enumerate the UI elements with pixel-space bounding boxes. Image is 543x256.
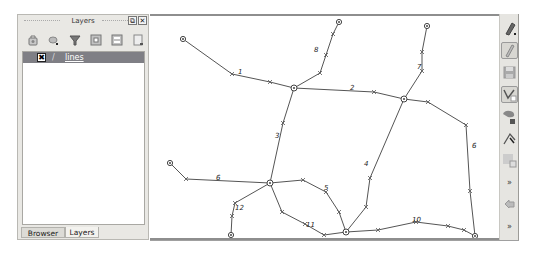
add-line-icon [502,87,517,102]
node-tool-icon [501,130,518,147]
line-feature[interactable]: 4 [346,99,404,232]
toggle-editing-button[interactable] [501,20,518,37]
line-symbol-icon: / [52,52,55,63]
layer-item-lines[interactable]: ✖ / lines [23,52,144,63]
line-feature[interactable]: 12 [230,183,270,235]
delete-selected-icon [501,152,518,169]
undo-button[interactable] [501,196,518,213]
map-features[interactable]: 123456678101112 [150,16,499,238]
delete-selected-button[interactable] [501,152,518,169]
line-label: 5 [324,184,329,192]
line-feature[interactable]: 11 [270,183,346,237]
line-feature[interactable]: 6 [170,163,270,183]
line-label: 3 [275,132,279,140]
line-label: 2 [350,84,355,92]
layer-tree: ✖ / lines [22,51,145,225]
digitizing-toolbar: » » [499,14,519,240]
map-canvas[interactable]: 123456678101112 [150,14,499,240]
open-layer-styling-icon[interactable] [26,32,40,46]
line-label: 4 [364,160,368,168]
tab-browser[interactable]: Browser [21,227,65,238]
line-feature[interactable]: 8 [294,22,339,88]
collapse-all-icon[interactable] [110,32,124,46]
line-label: 6 [472,142,477,150]
line-feature[interactable]: 10 [346,216,475,236]
move-feature-button[interactable] [501,108,518,125]
move-feature-icon [501,108,518,125]
line-feature[interactable]: 3 [270,88,294,183]
float-panel-button[interactable]: ⧉ [128,16,137,25]
line-label: 12 [235,204,244,212]
node-tool-button[interactable] [501,130,518,147]
save-edits-button[interactable] [501,64,518,81]
layers-panel: Layers ⧉ ✕ ✖ / lines Browser Layers [17,14,149,240]
save-icon [501,64,518,81]
close-panel-button[interactable]: ✕ [138,16,147,25]
add-line-feature-button[interactable] [501,86,518,103]
more-tools-chevron-icon[interactable]: » [501,174,518,191]
layer-visibility-checkbox[interactable]: ✖ [37,53,46,62]
layers-toolbar [22,29,146,51]
more-tools-chevron-icon[interactable]: » [501,218,518,235]
title-grip [102,20,130,23]
remove-layer-icon[interactable] [131,32,145,46]
undo-icon [501,196,518,213]
frame-divider [150,240,519,241]
pencil-icon [501,20,518,37]
edit-pencil-icon [502,43,517,58]
line-label: 1 [238,68,242,76]
line-feature[interactable]: 2 [294,84,404,99]
tab-layers[interactable]: Layers [65,227,99,238]
line-feature[interactable]: 1 [183,39,294,88]
line-feature[interactable]: 7 [404,26,427,99]
line-label: 10 [412,216,421,224]
current-edits-button[interactable] [501,42,518,59]
add-group-icon[interactable] [47,32,61,46]
expand-all-icon[interactable] [89,32,103,46]
filter-legend-icon[interactable] [68,32,82,46]
line-label: 8 [314,46,319,54]
line-label: 7 [417,63,422,71]
layer-name[interactable]: lines [65,52,84,63]
line-label: 11 [306,221,315,229]
line-label: 6 [216,174,221,182]
vertex-marker-icon [280,210,284,214]
